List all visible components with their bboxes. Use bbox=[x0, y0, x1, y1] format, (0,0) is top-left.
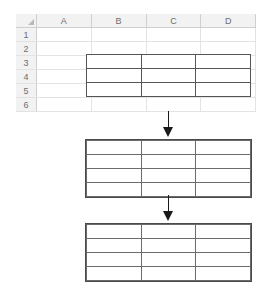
table-cell[interactable] bbox=[87, 69, 142, 83]
worksheet-row: 6 bbox=[16, 98, 256, 112]
table-row bbox=[87, 155, 251, 169]
row-header-4[interactable]: 4 bbox=[16, 70, 37, 84]
table-cell[interactable] bbox=[87, 55, 142, 69]
table-cell[interactable] bbox=[141, 239, 196, 253]
table-row bbox=[87, 253, 251, 267]
table-row bbox=[87, 239, 251, 253]
table-cell[interactable] bbox=[87, 239, 142, 253]
table-cell[interactable] bbox=[196, 225, 251, 239]
data-table-step-2[interactable] bbox=[86, 140, 251, 197]
select-all-corner[interactable] bbox=[16, 14, 37, 28]
table-cell[interactable] bbox=[87, 155, 142, 169]
cell-c1[interactable] bbox=[146, 28, 201, 42]
table-cell[interactable] bbox=[196, 253, 251, 267]
table-cell[interactable] bbox=[141, 83, 196, 97]
table-cell[interactable] bbox=[196, 169, 251, 183]
table-cell[interactable] bbox=[141, 169, 196, 183]
data-table-step-3[interactable] bbox=[86, 224, 251, 281]
worksheet-row: 1 bbox=[16, 28, 256, 42]
row-header-3[interactable]: 3 bbox=[16, 56, 37, 70]
cell-b6[interactable] bbox=[91, 98, 146, 112]
arrow-head bbox=[163, 211, 173, 221]
embedded-table-step-1[interactable] bbox=[86, 54, 251, 97]
table-cell[interactable] bbox=[87, 225, 142, 239]
column-header-b[interactable]: B bbox=[91, 14, 146, 28]
table-cell[interactable] bbox=[141, 267, 196, 281]
table-cell[interactable] bbox=[141, 69, 196, 83]
table-cell[interactable] bbox=[87, 183, 142, 197]
table-row bbox=[87, 55, 251, 69]
column-header-c[interactable]: C bbox=[146, 14, 201, 28]
cell-a4[interactable] bbox=[37, 70, 92, 84]
cell-d6[interactable] bbox=[201, 98, 256, 112]
row-header-6[interactable]: 6 bbox=[16, 98, 37, 112]
table-cell[interactable] bbox=[196, 267, 251, 281]
row-header-1[interactable]: 1 bbox=[16, 28, 37, 42]
cell-a5[interactable] bbox=[37, 84, 92, 98]
table-row bbox=[87, 83, 251, 97]
table-cell[interactable] bbox=[141, 141, 196, 155]
cell-a1[interactable] bbox=[37, 28, 92, 42]
cell-d1[interactable] bbox=[201, 28, 256, 42]
column-header-a[interactable]: A bbox=[37, 14, 92, 28]
table-row bbox=[87, 225, 251, 239]
row-header-2[interactable]: 2 bbox=[16, 42, 37, 56]
cell-b1[interactable] bbox=[91, 28, 146, 42]
diagram-canvas: A B C D 1 2 3 4 bbox=[0, 0, 272, 301]
table-row bbox=[87, 69, 251, 83]
flow-arrow-2-down-icon bbox=[163, 195, 174, 221]
table-cell[interactable] bbox=[141, 253, 196, 267]
table-cell[interactable] bbox=[141, 155, 196, 169]
table-cell[interactable] bbox=[196, 55, 251, 69]
arrow-head bbox=[163, 127, 173, 137]
table-cell[interactable] bbox=[196, 155, 251, 169]
table-row bbox=[87, 169, 251, 183]
table-row bbox=[87, 267, 251, 281]
table-cell[interactable] bbox=[141, 55, 196, 69]
table-cell[interactable] bbox=[87, 169, 142, 183]
table-cell[interactable] bbox=[196, 69, 251, 83]
column-header-row: A B C D bbox=[16, 14, 256, 28]
table-cell[interactable] bbox=[87, 141, 142, 155]
flow-arrow-1-down-icon bbox=[163, 111, 174, 137]
cell-a3[interactable] bbox=[37, 56, 92, 70]
table-cell[interactable] bbox=[87, 253, 142, 267]
cell-c6[interactable] bbox=[146, 98, 201, 112]
cell-a6[interactable] bbox=[37, 98, 92, 112]
cell-a2[interactable] bbox=[37, 42, 92, 56]
table-cell[interactable] bbox=[87, 267, 142, 281]
table-cell[interactable] bbox=[196, 239, 251, 253]
table-row bbox=[87, 141, 251, 155]
table-cell[interactable] bbox=[196, 183, 251, 197]
table-cell[interactable] bbox=[87, 83, 142, 97]
select-all-triangle-icon bbox=[28, 19, 34, 25]
column-header-d[interactable]: D bbox=[201, 14, 256, 28]
table-cell[interactable] bbox=[196, 83, 251, 97]
table-cell[interactable] bbox=[141, 225, 196, 239]
row-header-5[interactable]: 5 bbox=[16, 84, 37, 98]
table-cell[interactable] bbox=[196, 141, 251, 155]
